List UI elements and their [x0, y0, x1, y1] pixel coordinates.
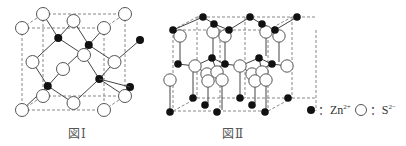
sulfide-ion: [249, 75, 261, 87]
zinc-ion: [213, 108, 221, 116]
sulfide-ion: [67, 15, 80, 28]
zinc-ion: [174, 60, 182, 68]
zinc-ion: [255, 54, 263, 62]
sulfide-ion-icon: [355, 104, 367, 116]
figure-2-caption: 図Ⅱ: [222, 124, 244, 142]
sulfide-ion: [202, 75, 214, 87]
zinc-ion: [54, 34, 62, 42]
zinc-ion: [246, 13, 254, 21]
sulfide-ion: [26, 56, 39, 69]
legend-separator-2: ：: [370, 101, 382, 119]
legend: ： Zn2+ ： S2−: [307, 101, 396, 119]
legend-zn-label: Zn2+: [330, 103, 351, 118]
zinc-ion: [208, 54, 216, 62]
zinc-ion: [166, 108, 174, 116]
zinc-ion: [268, 60, 276, 68]
sulfide-ion: [16, 22, 29, 35]
zinc-ion: [85, 41, 93, 49]
zinc-ion: [221, 60, 229, 68]
zinc-ion: [44, 82, 52, 90]
zinc-ion: [136, 36, 144, 44]
zinc-ion: [236, 94, 244, 102]
zinc-ion: [258, 20, 266, 28]
sulfide-ion: [98, 104, 111, 117]
sulfide-ion: [234, 60, 246, 72]
sulfide-ion: [37, 8, 50, 21]
figure-1-caption: 図Ⅰ: [68, 124, 87, 142]
zinc-ion: [248, 101, 256, 109]
figure-1-zinc-blende: [16, 8, 145, 117]
sulfide-ion: [78, 49, 91, 62]
sulfide-ion: [108, 56, 121, 69]
zinc-ion: [261, 108, 269, 116]
sulfide-ion: [98, 22, 111, 35]
zinc-ion: [284, 94, 292, 102]
sulfide-ion: [119, 90, 132, 103]
sulfide-ion: [67, 97, 80, 110]
sulfide-ion: [57, 63, 70, 76]
zinc-ion: [169, 26, 177, 34]
zinc-ion: [293, 13, 301, 21]
bond: [173, 17, 203, 30]
zinc-ion-icon: [307, 106, 315, 114]
zinc-ion: [199, 13, 207, 21]
zinc-ion: [201, 101, 209, 109]
sulfide-ion: [37, 90, 50, 103]
sulfide-ion: [260, 74, 272, 86]
sulfide-ion: [164, 74, 176, 86]
zinc-ion: [210, 20, 218, 28]
figure-2-wurtzite: [164, 13, 316, 116]
bond: [275, 17, 297, 30]
zinc-ion: [225, 26, 233, 34]
sulfide-ion: [216, 74, 228, 86]
crystal-structures-diagram: [0, 0, 406, 146]
sulfide-ion: [189, 60, 201, 72]
sulfide-ion: [16, 104, 29, 117]
zinc-ion: [271, 26, 279, 34]
legend-s-label: S2−: [382, 103, 396, 118]
legend-separator-1: ：: [318, 101, 330, 119]
sulfide-ion: [281, 60, 293, 72]
sulfide-ion: [119, 8, 132, 21]
zinc-ion: [189, 94, 197, 102]
